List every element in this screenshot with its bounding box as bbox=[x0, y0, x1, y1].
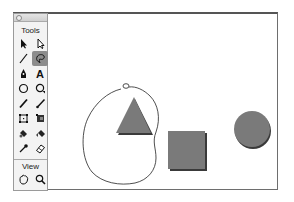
magnifier-icon bbox=[35, 174, 46, 185]
polystar-tool[interactable] bbox=[32, 81, 48, 96]
free-transform-icon bbox=[18, 113, 29, 124]
text-icon: A bbox=[36, 68, 44, 80]
eyedropper-icon bbox=[18, 143, 29, 154]
hand-icon bbox=[18, 174, 29, 185]
zoom-tool[interactable] bbox=[32, 172, 48, 187]
paint-bucket-tool[interactable] bbox=[32, 126, 48, 141]
text-tool[interactable]: A bbox=[32, 66, 48, 81]
ink-bottle-icon bbox=[18, 128, 29, 139]
gradient-transform-tool[interactable] bbox=[32, 111, 48, 126]
selection-tool[interactable] bbox=[15, 36, 31, 51]
tools-grid: A bbox=[14, 36, 47, 156]
paint-bucket-icon bbox=[35, 128, 46, 139]
hollow-arrow-icon bbox=[35, 38, 46, 49]
eraser-icon bbox=[35, 143, 46, 154]
brush-tool[interactable] bbox=[32, 96, 48, 111]
ink-bottle-tool[interactable] bbox=[15, 126, 31, 141]
eyedropper-tool[interactable] bbox=[15, 141, 31, 156]
arrow-icon bbox=[18, 38, 29, 49]
tools-panel-titlebar[interactable] bbox=[14, 14, 47, 22]
polystar-icon bbox=[35, 83, 46, 94]
tools-panel-title: Tools bbox=[14, 25, 47, 36]
free-transform-tool[interactable] bbox=[15, 111, 31, 126]
gradient-transform-icon bbox=[35, 113, 46, 124]
stage-canvas[interactable] bbox=[13, 12, 278, 190]
subselection-tool[interactable] bbox=[32, 36, 48, 51]
oval-tool[interactable] bbox=[15, 81, 31, 96]
view-tools-grid bbox=[14, 172, 47, 187]
eraser-tool[interactable] bbox=[32, 141, 48, 156]
pen-tool[interactable] bbox=[15, 66, 31, 81]
oval-icon bbox=[18, 83, 29, 94]
lasso-icon bbox=[35, 53, 46, 64]
line-icon bbox=[18, 53, 29, 64]
pen-icon bbox=[18, 68, 29, 79]
close-icon[interactable] bbox=[16, 15, 22, 21]
pencil-icon bbox=[18, 98, 29, 109]
square-shape[interactable] bbox=[168, 131, 205, 169]
tools-panel: Tools A bbox=[13, 13, 48, 191]
line-tool[interactable] bbox=[15, 51, 31, 66]
view-divider bbox=[14, 159, 47, 160]
pencil-tool[interactable] bbox=[15, 96, 31, 111]
view-section-title: View bbox=[14, 161, 47, 172]
hand-tool[interactable] bbox=[15, 172, 31, 187]
lasso-tool[interactable] bbox=[32, 51, 48, 66]
brush-icon bbox=[35, 98, 46, 109]
circle-shape[interactable] bbox=[234, 111, 270, 147]
